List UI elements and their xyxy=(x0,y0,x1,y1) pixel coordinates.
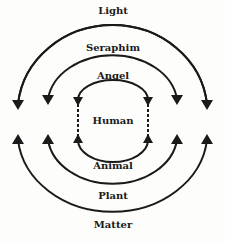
label-angel: Angel xyxy=(97,70,129,81)
animal-arc xyxy=(78,140,148,162)
label-animal: Animal xyxy=(93,160,133,171)
label-plant: Plant xyxy=(98,190,128,201)
label-human: Human xyxy=(92,115,133,126)
arrow-down-icon xyxy=(201,100,213,110)
label-matter: Matter xyxy=(94,219,132,230)
arrow-up-icon xyxy=(73,134,83,143)
matter-arc xyxy=(18,140,207,212)
hierarchy-diagram: Light Seraphim Angel Human Animal Plant … xyxy=(0,0,225,243)
arrow-up-icon xyxy=(201,134,213,144)
arrow-up-icon xyxy=(143,134,153,143)
arrow-down-icon xyxy=(143,97,153,106)
light-arc xyxy=(18,25,207,104)
arrow-down-icon xyxy=(73,97,83,106)
label-seraphim: Seraphim xyxy=(86,42,140,53)
arrow-up-icon xyxy=(12,134,24,144)
angel-arc xyxy=(78,80,148,100)
arrow-up-icon xyxy=(171,134,183,144)
label-light: Light xyxy=(98,5,128,16)
arrow-down-icon xyxy=(42,95,54,105)
arrow-down-icon xyxy=(12,100,24,110)
arrow-up-icon xyxy=(42,134,54,144)
arrow-down-icon xyxy=(171,95,183,105)
